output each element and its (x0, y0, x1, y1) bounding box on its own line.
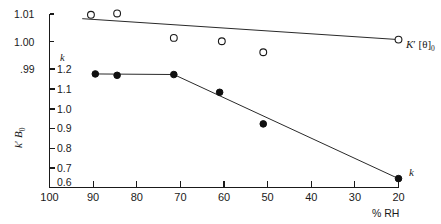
y-axis-lower-labels: 1.2 1.1 1.0 0.9 0.8 0.7 0.6 (57, 63, 72, 189)
y-tick-label-lower-5: 0.7 (57, 162, 72, 174)
data-point (218, 38, 225, 45)
y-axis-upper-labels: 1.01 1.00 .99 (14, 8, 35, 75)
y-axis-title: k′ B0 (12, 127, 27, 148)
y-tick-label-lower-2: 1.0 (57, 103, 72, 115)
y-axis-lower-ticks (50, 69, 56, 188)
x-axis-labels: 100 90 80 70 60 50 40 30 20 (40, 191, 404, 203)
x-tick-label-8: 20 (392, 191, 404, 203)
series-upper-markers (88, 10, 402, 56)
scatter-plot: 1.01 1.00 .99 1.2 1.1 1.0 0.9 0.8 0.7 0.… (0, 0, 441, 224)
y-tick-label-lower-6: 0.6 (57, 176, 72, 188)
data-point (170, 35, 177, 42)
y-axis-title-sub: 0 (18, 127, 27, 131)
series-lower-markers (92, 71, 402, 182)
y-tick-label-upper-2: .99 (20, 63, 35, 75)
data-point (171, 71, 178, 78)
x-tick-label-0: 100 (40, 191, 58, 203)
series-lower-annotation: k (409, 166, 415, 178)
x-tick-label-7: 30 (349, 191, 361, 203)
svg-text:k′ B0: k′ B0 (12, 127, 27, 148)
x-tick-label-2: 80 (131, 191, 143, 203)
data-point (395, 175, 402, 182)
data-point (92, 71, 99, 78)
y-tick-label-lower-1: 1.1 (57, 83, 72, 95)
data-point (114, 10, 121, 17)
x-tick-label-3: 70 (174, 191, 186, 203)
data-point (216, 89, 223, 96)
x-tick-label-1: 90 (87, 191, 99, 203)
x-tick-label-5: 50 (261, 191, 273, 203)
data-point (88, 11, 95, 18)
y-tick-label-upper-1: 1.00 (14, 36, 35, 48)
x-tick-label-6: 40 (305, 191, 317, 203)
series-lower-trend-line (95, 74, 398, 179)
annot-upper-bracket: [θ] (419, 38, 432, 50)
lower-scale-key-k: k (60, 52, 65, 63)
data-point (260, 121, 267, 128)
data-point (395, 36, 402, 43)
chart-page: 1.01 1.00 .99 1.2 1.1 1.0 0.9 0.8 0.7 0.… (0, 0, 441, 224)
x-tick-label-4: 60 (218, 191, 230, 203)
data-point (114, 72, 121, 79)
annot-upper-sub: 0 (431, 44, 435, 53)
series-upper-annotation: K′ [θ]0 (405, 38, 435, 53)
x-axis-ticks (50, 181, 399, 188)
y-tick-label-upper-0: 1.01 (14, 8, 35, 20)
series-lower-filled-circles (92, 71, 402, 182)
y-axis-upper-ticks (50, 14, 55, 69)
data-point (260, 49, 267, 56)
series-upper-open-circles (82, 10, 402, 56)
y-tick-label-lower-3: 0.9 (57, 122, 72, 134)
x-axis-title: % RH (372, 207, 399, 219)
series-upper-trend-line (82, 19, 398, 40)
y-tick-label-lower-4: 0.8 (57, 142, 72, 154)
y-tick-label-lower-0: 1.2 (57, 63, 72, 75)
